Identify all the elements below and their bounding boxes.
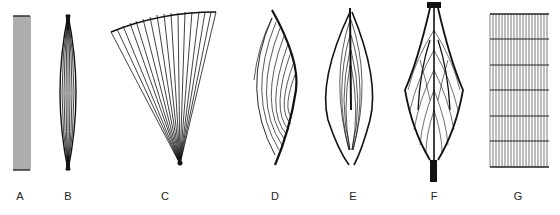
figure-d-unipennate [254,10,297,165]
label-f: F [431,190,438,202]
label-g: G [514,190,523,202]
figure-a-parallel [13,16,30,170]
figure-g-strap-segmented [490,14,549,167]
label-d: D [271,190,279,202]
label-b: B [64,190,71,202]
label-c: C [161,190,169,202]
label-e: E [349,190,356,202]
figure-b-fusiform [60,15,76,170]
figure-c-convergent [111,12,216,165]
muscle-architecture-diagram [0,0,560,215]
figure-f-multipennate [405,2,463,182]
figure-e-bipennate [326,8,373,165]
label-a: A [16,190,23,202]
